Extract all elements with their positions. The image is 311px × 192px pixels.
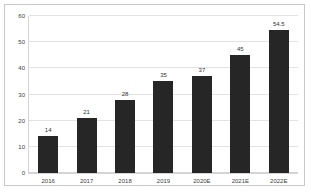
bar-value-label: 21 xyxy=(83,109,90,115)
bar[interactable] xyxy=(153,81,173,173)
y-axis-tick-label: 20 xyxy=(18,118,25,124)
bar-value-label: 14 xyxy=(45,127,52,133)
bar-group: 212017 xyxy=(67,16,105,173)
bar-group: 372020E xyxy=(183,16,221,173)
bar[interactable] xyxy=(77,118,97,173)
bar-value-label: 54.5 xyxy=(273,21,285,27)
plot-area: 0102030405060142016212017282018352019372… xyxy=(28,16,298,174)
bar[interactable] xyxy=(38,136,58,173)
y-axis-tick-label: 30 xyxy=(18,92,25,98)
y-axis-tick-label: 10 xyxy=(18,144,25,150)
bar-value-label: 35 xyxy=(160,72,167,78)
bar-group: 352019 xyxy=(144,16,182,173)
bar-value-label: 45 xyxy=(237,46,244,52)
y-axis-tick-label: 0 xyxy=(22,170,25,176)
bar-group: 142016 xyxy=(29,16,67,173)
x-axis-tick-label: 2017 xyxy=(80,178,93,184)
bar-value-label: 28 xyxy=(122,91,129,97)
x-axis-tick-label: 2016 xyxy=(42,178,55,184)
x-axis-tick-label: 2020E xyxy=(193,178,210,184)
y-axis-tick-label: 60 xyxy=(18,13,25,19)
y-axis-tick-label: 50 xyxy=(18,39,25,45)
x-axis-tick-label: 2021E xyxy=(232,178,249,184)
bar-group: 54.52022E xyxy=(260,16,298,173)
bar-group: 282018 xyxy=(106,16,144,173)
bar-value-label: 37 xyxy=(199,67,206,73)
bar[interactable] xyxy=(230,55,250,173)
x-axis-tick-label: 2019 xyxy=(157,178,170,184)
bar-group: 452021E xyxy=(221,16,259,173)
bar[interactable] xyxy=(115,100,135,173)
bar[interactable] xyxy=(269,30,289,173)
y-axis-tick-label: 40 xyxy=(18,65,25,71)
chart-frame: 0102030405060142016212017282018352019372… xyxy=(4,4,305,186)
bar[interactable] xyxy=(192,76,212,173)
x-axis-tick-label: 2018 xyxy=(118,178,131,184)
x-axis-tick-label: 2022E xyxy=(270,178,287,184)
